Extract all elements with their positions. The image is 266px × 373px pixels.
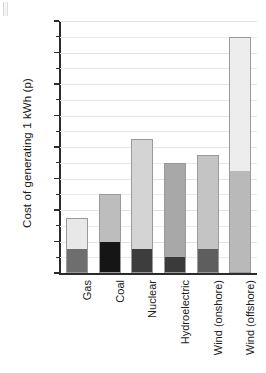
bar-segment-lower	[229, 171, 251, 273]
y-tick-minor	[56, 194, 59, 195]
y-tick-major	[54, 272, 59, 273]
x-axis-label: Gas	[82, 280, 93, 300]
bar-segment-lower	[164, 257, 186, 273]
gridline-minor	[60, 68, 257, 69]
gridline-minor	[60, 37, 257, 38]
gridline-minor	[60, 163, 257, 164]
y-tick-minor	[56, 131, 59, 132]
y-tick-major	[54, 20, 59, 21]
x-axis-label: Wind (offshore)	[245, 280, 256, 355]
x-axis-label: Wind (onshore)	[213, 280, 224, 355]
y-tick-minor	[56, 225, 59, 226]
bar-coal	[99, 194, 121, 273]
bar-hydroelectric	[164, 163, 186, 273]
gridline-minor	[60, 257, 257, 258]
gridline-major	[60, 116, 257, 117]
gridline-minor	[60, 131, 257, 132]
x-axis-label: Hydroelectric	[180, 280, 191, 344]
gridline-major	[60, 242, 257, 243]
x-axis-label: Coal	[115, 280, 126, 303]
bar-segment-lower	[197, 249, 219, 273]
bar-segment-upper	[131, 139, 153, 249]
x-axis-line	[59, 273, 257, 275]
gridline-minor	[60, 194, 257, 195]
y-tick-minor	[56, 68, 59, 69]
bar-segment-lower	[99, 242, 121, 274]
y-tick-major	[54, 52, 59, 53]
y-tick-major	[54, 241, 59, 242]
plot-area: 0246810121416 GasCoalNuclearHydroelectri…	[59, 21, 255, 273]
y-tick-major	[54, 178, 59, 179]
bar-segment-upper	[164, 163, 186, 258]
gridline-major	[60, 53, 257, 54]
gridline-minor	[60, 226, 257, 227]
y-tick-minor	[56, 36, 59, 37]
bar-wind-offshore	[229, 37, 251, 273]
gridline-major	[60, 147, 257, 148]
y-tick-minor	[56, 99, 59, 100]
bar-nuclear	[131, 139, 153, 273]
y-tick-minor	[56, 162, 59, 163]
gridline-major	[60, 84, 257, 85]
bar-segment-upper	[99, 194, 121, 241]
chart-figure: Cost of generating 1 kWh (p) 02468101214…	[0, 0, 266, 373]
y-axis-title: Cost of generating 1 kWh (p)	[21, 43, 33, 263]
gridline-minor	[60, 100, 257, 101]
y-tick-major	[54, 209, 59, 210]
y-tick-minor	[56, 257, 59, 258]
bar-gas	[66, 218, 88, 273]
y-tick-major	[54, 83, 59, 84]
gridline-major	[60, 21, 257, 22]
bar-segment-upper	[229, 37, 251, 171]
bar-wind-onshore	[197, 155, 219, 273]
y-tick-major	[54, 115, 59, 116]
scan-artifact-mark	[3, 2, 8, 16]
bar-segment-lower	[66, 249, 88, 273]
x-axis-label: Nuclear	[147, 280, 158, 318]
gridline-major	[60, 179, 257, 180]
bar-segment-lower	[131, 249, 153, 273]
bar-segment-upper	[197, 155, 219, 250]
y-tick-major	[54, 146, 59, 147]
gridline-major	[60, 210, 257, 211]
bar-segment-upper	[66, 218, 88, 250]
